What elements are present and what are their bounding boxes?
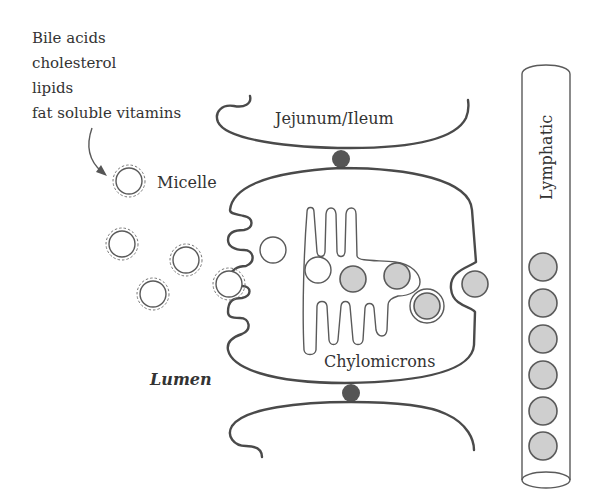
input-bile-acids: Bile acids bbox=[32, 29, 106, 47]
micelle bbox=[106, 228, 138, 260]
lymph-chylomicron bbox=[529, 289, 557, 317]
tight-junction-bottom bbox=[342, 384, 360, 402]
arrowhead-icon bbox=[96, 165, 107, 176]
micelle bbox=[137, 278, 169, 310]
lymph-chylomicron bbox=[529, 325, 557, 353]
micelle-label: Micelle bbox=[157, 173, 217, 192]
lipid-droplet-er bbox=[305, 257, 331, 283]
enterocyte-absorption-diagram: Bile acids cholesterol lipids fat solubl… bbox=[0, 0, 597, 504]
micelle-legend: Micelle bbox=[113, 165, 217, 197]
lymph-chylomicron bbox=[529, 397, 557, 425]
lymphatic-vessel: Lymphatic bbox=[522, 65, 570, 488]
input-fat-soluble-vitamins: fat soluble vitamins bbox=[32, 104, 181, 122]
top-neighbor-cell: Jejunum/Ileum bbox=[217, 96, 469, 148]
chylomicron-exocytosed bbox=[462, 271, 488, 297]
tight-junction-top bbox=[332, 150, 350, 168]
chylomicron-2 bbox=[384, 263, 410, 289]
micelle bbox=[213, 268, 245, 300]
chylomicrons-label: Chylomicrons bbox=[324, 352, 435, 371]
chylomicron-vesicle bbox=[410, 289, 444, 323]
arrow-to-micelle bbox=[89, 128, 107, 176]
jejunum-label: Jejunum/Ileum bbox=[273, 109, 394, 128]
lymph-chylomicron bbox=[529, 253, 557, 281]
lymphatic-label: Lymphatic bbox=[537, 115, 556, 200]
inputs-list: Bile acids cholesterol lipids fat solubl… bbox=[32, 29, 181, 122]
input-lipids: lipids bbox=[32, 79, 73, 97]
lymph-chylomicron bbox=[529, 432, 557, 460]
input-cholesterol: cholesterol bbox=[32, 54, 117, 72]
lumen-label: Lumen bbox=[149, 370, 212, 389]
lipid-droplet-entering bbox=[260, 237, 286, 263]
lumen-micelles bbox=[106, 228, 245, 310]
bottom-neighbor-cell bbox=[230, 402, 474, 457]
chylomicron-1 bbox=[340, 266, 366, 292]
micelle bbox=[170, 244, 202, 276]
lymph-chylomicron bbox=[529, 361, 557, 389]
